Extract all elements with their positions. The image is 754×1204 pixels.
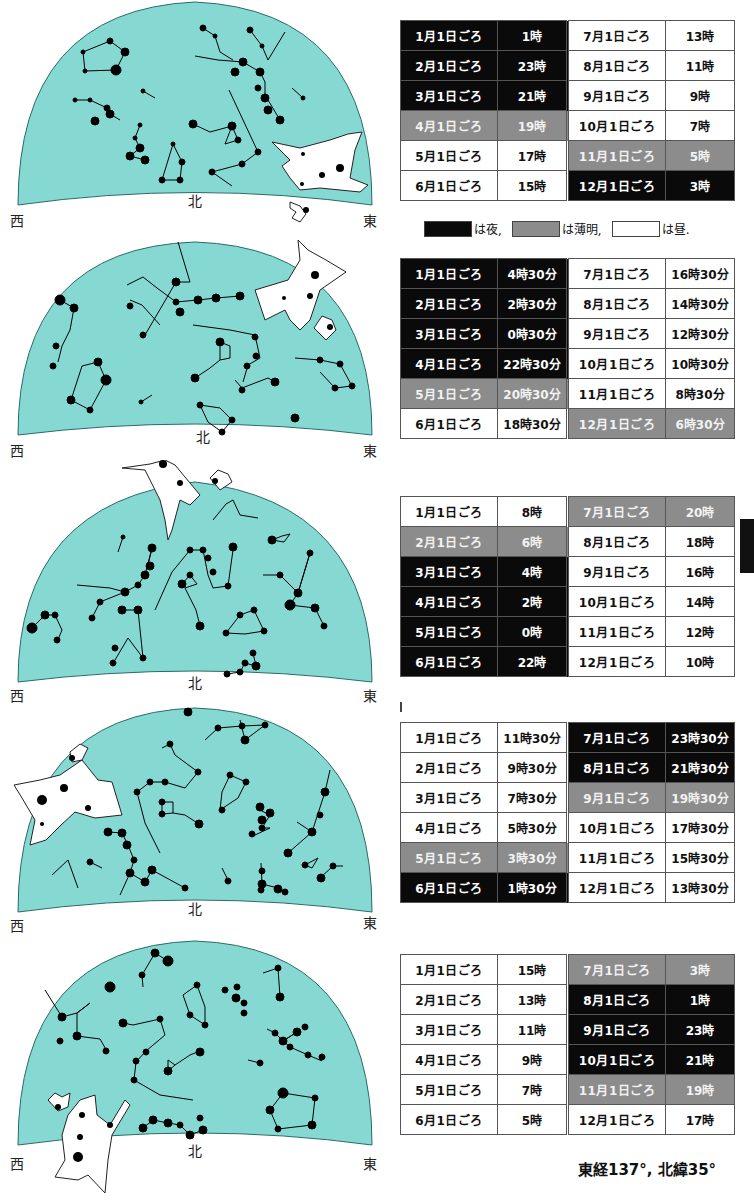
label-west: 西 (10, 210, 24, 230)
time-cell: 4時 (498, 557, 568, 587)
time-cell: 21時 (666, 1045, 735, 1075)
legend-night-label: は夜, (474, 220, 502, 237)
table-row: 3月1日ごろ21時9月1日ごろ9時 (401, 81, 735, 111)
time-cell: 5時 (498, 1105, 568, 1135)
table-row: 6月1日ごろ22時12月1日ごろ10時 (401, 647, 735, 677)
time-table-1: 1月1日ごろ1時7月1日ごろ13時2月1日ごろ23時8月1日ごろ11時3月1日ご… (400, 20, 735, 201)
date-cell: 2月1日ごろ (401, 51, 498, 81)
date-cell: 5月1日ごろ (401, 141, 498, 171)
table-row: 1月1日ごろ8時7月1日ごろ20時 (401, 497, 735, 527)
date-cell: 10月1日ごろ (568, 349, 666, 379)
label-west: 西 (10, 1153, 24, 1173)
time-cell: 14時30分 (666, 289, 735, 319)
date-cell: 10月1日ごろ (568, 587, 666, 617)
sky-chart-2: 西 北 東 (0, 230, 390, 460)
date-cell: 4月1日ごろ (401, 349, 498, 379)
date-cell: 11月1日ごろ (568, 843, 666, 873)
time-table-2: 1月1日ごろ4時30分7月1日ごろ16時30分2月1日ごろ2時30分8月1日ごろ… (400, 258, 735, 439)
date-cell: 3月1日ごろ (401, 557, 498, 587)
label-east: 東 (363, 1153, 377, 1173)
date-cell: 9月1日ごろ (568, 1015, 666, 1045)
time-cell: 18時 (666, 527, 735, 557)
time-cell: 0時30分 (498, 319, 568, 349)
table-row: 3月1日ごろ0時30分9月1日ごろ12時30分 (401, 319, 735, 349)
table-row: 5月1日ごろ17時11月1日ごろ5時 (401, 141, 735, 171)
time-cell: 10時 (666, 647, 735, 677)
label-north: 北 (188, 898, 202, 918)
label-west: 西 (10, 915, 24, 935)
date-cell: 8月1日ごろ (568, 51, 666, 81)
time-cell: 2時30分 (498, 289, 568, 319)
table-row: 1月1日ごろ4時30分7月1日ごろ16時30分 (401, 259, 735, 289)
legend: は夜, は薄明, は昼. (424, 220, 697, 237)
sky-chart-4: 西 北 東 (0, 700, 390, 940)
time-cell: 2時 (498, 587, 568, 617)
date-cell: 2月1日ごろ (401, 985, 498, 1015)
date-cell: 5月1日ごろ (401, 1075, 498, 1105)
legend-day-swatch (612, 221, 660, 237)
time-cell: 7時 (666, 111, 735, 141)
time-cell: 18時30分 (498, 409, 568, 439)
date-cell: 9月1日ごろ (568, 783, 666, 813)
date-cell: 4月1日ごろ (401, 111, 498, 141)
date-cell: 6月1日ごろ (401, 647, 498, 677)
date-cell: 11月1日ごろ (568, 141, 666, 171)
time-cell: 7時30分 (498, 783, 568, 813)
label-east: 東 (363, 210, 377, 230)
time-cell: 22時 (498, 647, 568, 677)
date-cell: 2月1日ごろ (401, 527, 498, 557)
label-north: 北 (188, 1140, 202, 1160)
date-cell: 12月1日ごろ (568, 1105, 666, 1135)
time-cell: 13時 (666, 21, 735, 51)
time-cell: 20時30分 (498, 379, 568, 409)
time-cell: 8時 (498, 497, 568, 527)
date-cell: 8月1日ごろ (568, 753, 666, 783)
table-row: 6月1日ごろ18時30分12月1日ごろ6時30分 (401, 409, 735, 439)
time-cell: 5時30分 (498, 813, 568, 843)
time-cell: 9時 (498, 1045, 568, 1075)
time-cell: 19時30分 (666, 783, 735, 813)
time-cell: 8時30分 (666, 379, 735, 409)
legend-twilight-swatch (512, 221, 560, 237)
time-cell: 15時 (498, 171, 568, 201)
time-cell: 4時30分 (498, 259, 568, 289)
date-cell: 6月1日ごろ (401, 171, 498, 201)
page-tab-marker (740, 519, 754, 573)
time-cell: 11時 (666, 51, 735, 81)
time-cell: 19時 (666, 1075, 735, 1105)
time-cell: 23時30分 (666, 723, 735, 753)
table-row: 1月1日ごろ1時7月1日ごろ13時 (401, 21, 735, 51)
table-row: 6月1日ごろ15時12月1日ごろ3時 (401, 171, 735, 201)
date-cell: 7月1日ごろ (568, 259, 666, 289)
table-row: 4月1日ごろ9時10月1日ごろ21時 (401, 1045, 735, 1075)
date-cell: 7月1日ごろ (568, 955, 666, 985)
time-cell: 20時 (666, 497, 735, 527)
time-cell: 15時 (498, 955, 568, 985)
time-cell: 9時30分 (498, 753, 568, 783)
time-table-5: 1月1日ごろ15時7月1日ごろ3時2月1日ごろ13時8月1日ごろ1時3月1日ごろ… (400, 954, 735, 1135)
time-cell: 9時 (666, 81, 735, 111)
time-cell: 11時30分 (498, 723, 568, 753)
time-cell: 23時 (666, 1015, 735, 1045)
time-cell: 12時 (666, 617, 735, 647)
date-cell: 4月1日ごろ (401, 813, 498, 843)
time-table-4: 1月1日ごろ11時30分7月1日ごろ23時30分2月1日ごろ9時30分8月1日ご… (400, 722, 735, 903)
date-cell: 7月1日ごろ (568, 723, 666, 753)
table-row: 5月1日ごろ7時11月1日ごろ19時 (401, 1075, 735, 1105)
table-row: 4月1日ごろ2時10月1日ごろ14時 (401, 587, 735, 617)
date-cell: 2月1日ごろ (401, 289, 498, 319)
sky-chart-3: 西 北 東 (0, 460, 390, 700)
table-row: 2月1日ごろ9時30分8月1日ごろ21時30分 (401, 753, 735, 783)
sky-chart-1: 西 北 東 (0, 0, 390, 240)
time-cell: 1時30分 (498, 873, 568, 903)
time-table-3: 1月1日ごろ8時7月1日ごろ20時2月1日ごろ6時8月1日ごろ18時3月1日ごろ… (400, 496, 735, 677)
date-cell: 6月1日ごろ (401, 1105, 498, 1135)
table-row: 6月1日ごろ5時12月1日ごろ17時 (401, 1105, 735, 1135)
date-cell: 2月1日ごろ (401, 753, 498, 783)
time-cell: 13時30分 (666, 873, 735, 903)
table-row: 5月1日ごろ0時11月1日ごろ12時 (401, 617, 735, 647)
time-cell: 3時 (666, 955, 735, 985)
date-cell: 12月1日ごろ (568, 873, 666, 903)
time-cell: 17時30分 (666, 813, 735, 843)
time-cell: 13時 (498, 985, 568, 1015)
